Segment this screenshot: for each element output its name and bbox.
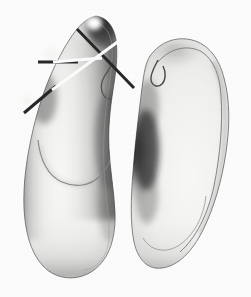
lung-illustration-canvas <box>0 0 251 297</box>
paper-overlay-tint <box>0 0 251 297</box>
anatomical-figure: lungs medial surfaces of right and left … <box>0 0 251 297</box>
